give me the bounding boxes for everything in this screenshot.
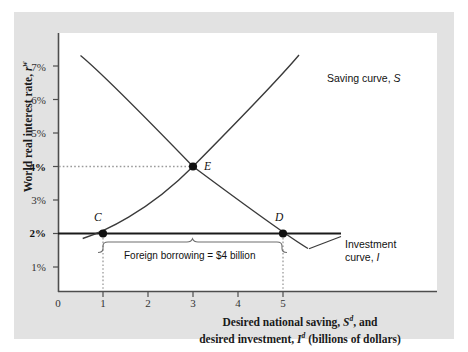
data-point-e: [189, 162, 197, 170]
chart-svg: [0, 0, 468, 352]
investment-curve-label: Investment curve, I: [345, 238, 396, 264]
data-point-label-e: E: [204, 160, 211, 172]
saving-curve-label: Saving curve, S: [327, 72, 401, 85]
investment-curve-label-line-2: curve, I: [345, 251, 396, 264]
investment-curve-label-symbol: I: [377, 251, 380, 263]
data-point-c: [99, 229, 107, 237]
data-point-d: [279, 229, 287, 237]
investment-curve-label-line-1: Investment: [345, 238, 396, 251]
economics-figure: World real interest rate, rw Desired nat…: [0, 0, 468, 352]
y-tick-marks: [53, 66, 58, 267]
x-tick-marks: [103, 292, 283, 297]
data-point-label-c: C: [94, 211, 102, 223]
investment-label-leader: [309, 237, 341, 249]
saving-curve-label-text: Saving curve,: [327, 72, 394, 84]
investment-curve-label-line2-text: curve,: [345, 251, 377, 263]
saving-curve: [83, 55, 299, 239]
data-point-label-d: D: [275, 211, 283, 223]
foreign-borrowing-annotation: Foreign borrowing = $4 billion: [124, 250, 255, 261]
investment-curve: [81, 56, 309, 249]
saving-curve-label-symbol: S: [394, 72, 401, 84]
